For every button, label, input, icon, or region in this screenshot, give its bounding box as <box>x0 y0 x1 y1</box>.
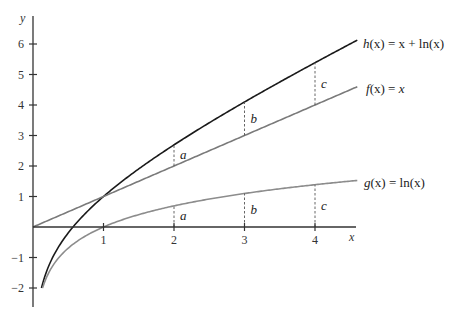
curve-h <box>41 40 357 288</box>
x-tick-label: 3 <box>242 233 248 247</box>
curve-g <box>43 180 358 288</box>
legend-g-arg: (x) <box>371 175 386 190</box>
x-tick-label: 4 <box>312 233 318 247</box>
segment-label-c: c <box>321 198 327 213</box>
y-tick-label: 2 <box>18 159 24 173</box>
axes-layer <box>33 16 356 307</box>
curves-layer <box>33 40 357 288</box>
legend-h-arg: (x) <box>370 36 385 51</box>
ticks-layer: 1234−2−1123456 <box>11 37 318 295</box>
legend-f: f(x) = x <box>366 81 405 96</box>
segment-label-c: c <box>321 76 327 91</box>
y-tick-label: 6 <box>18 37 24 51</box>
x-tick-label: 1 <box>101 233 107 247</box>
segment-label-b: b <box>251 111 258 126</box>
y-tick-label: 3 <box>18 129 24 143</box>
y-tick-label: −2 <box>11 281 24 295</box>
y-tick-label: 1 <box>18 190 24 204</box>
function-graph: 1234−2−1123456 abcabc x y h(x) = x + ln(… <box>0 0 470 321</box>
legend-f-rhs: x <box>398 81 405 96</box>
legend-f-arg: (x) <box>370 81 385 96</box>
x-tick-label: 2 <box>171 233 177 247</box>
legend-h-rhs: x + ln(x) <box>399 36 445 51</box>
segment-label-a: a <box>180 147 187 162</box>
legend-f-eq: = <box>385 81 399 96</box>
y-tick-label: −1 <box>11 251 24 265</box>
segment-label-a: a <box>180 208 187 223</box>
annotation-labels-layer: abcabc <box>180 76 327 224</box>
legend-h: h(x) = x + ln(x) <box>363 36 444 51</box>
legend-g-rhs: ln(x) <box>400 175 425 190</box>
y-tick-label: 5 <box>18 68 24 82</box>
curve-f <box>33 87 357 227</box>
legend-h-eq: = <box>385 36 399 51</box>
y-axis-label: y <box>19 11 26 25</box>
y-tick-label: 4 <box>18 98 24 112</box>
x-axis-label: x <box>348 230 355 244</box>
segment-label-b: b <box>251 202 258 217</box>
legend-g: g(x) = ln(x) <box>364 175 425 190</box>
legend-g-eq: = <box>386 175 400 190</box>
